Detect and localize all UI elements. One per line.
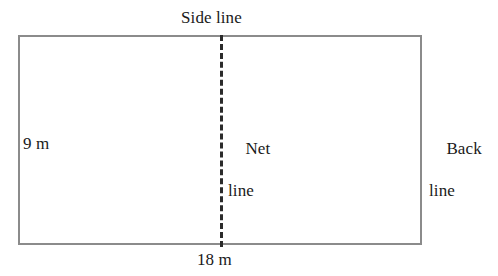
net-line-label-word1: Net bbox=[245, 139, 270, 158]
back-line-label: Back line bbox=[429, 117, 482, 243]
width-dimension-label: 18 m bbox=[197, 249, 232, 270]
side-line-label: Side line bbox=[181, 7, 242, 28]
back-line-label-word2: line bbox=[429, 180, 482, 201]
net-line-label-word2: line bbox=[228, 180, 270, 201]
court-diagram: Side line 9 m Net line Back line 18 m bbox=[0, 0, 498, 276]
height-dimension-label: 9 m bbox=[23, 133, 49, 154]
back-line-label-word1: Back bbox=[446, 139, 481, 158]
net-line bbox=[220, 35, 223, 247]
net-line-label: Net line bbox=[228, 117, 270, 243]
